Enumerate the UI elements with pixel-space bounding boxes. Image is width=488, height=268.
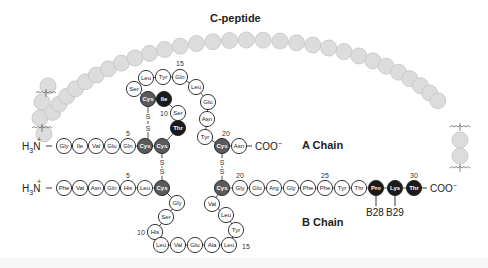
a-chain-residue-3: Val xyxy=(88,138,103,153)
a-chain-residue-17: Glu xyxy=(200,94,215,109)
svg-text:Gly: Gly xyxy=(236,185,245,191)
b-chain-residue-21: Glu xyxy=(249,180,264,195)
svg-text:+: + xyxy=(37,136,41,143)
svg-text:Glu: Glu xyxy=(107,143,116,149)
b-chain-label: B Chain xyxy=(302,216,344,228)
a-chain-residue-1: Gly xyxy=(56,138,71,153)
b-chain-residue-16: Tyr xyxy=(228,222,243,237)
svg-text:Lys: Lys xyxy=(390,185,401,191)
b-chain-residue-15: Leu xyxy=(221,237,236,252)
svg-text:Val: Val xyxy=(208,201,216,207)
c-peptide-residue xyxy=(205,34,221,50)
sulfur-label: S xyxy=(146,125,151,132)
b-chain-residue-8: Gly xyxy=(169,195,184,210)
b-chain-residue-12: Val xyxy=(170,237,185,252)
svg-text:Leu: Leu xyxy=(221,212,231,218)
a-chain-residue-13: Leu xyxy=(138,70,153,85)
a-chain-residue-9: Ser xyxy=(170,105,185,120)
svg-text:Cys: Cys xyxy=(142,96,154,102)
svg-text:Leu: Leu xyxy=(156,242,166,248)
b-chain-residue-14: Ala xyxy=(204,237,219,252)
sulfur-label: S xyxy=(220,159,225,166)
a-chain-residue-11: Cys xyxy=(140,91,155,106)
svg-text:Gln: Gln xyxy=(175,74,184,80)
svg-text:Pro: Pro xyxy=(371,185,381,191)
svg-text:Phe: Phe xyxy=(303,185,314,191)
b28-label: B28 xyxy=(366,207,384,218)
svg-text:Asn: Asn xyxy=(91,185,101,191)
c-peptide-residue xyxy=(289,35,305,51)
svg-text:Leu: Leu xyxy=(141,75,151,81)
a-chain-residue-5: Gln xyxy=(120,138,135,153)
svg-text:Leu: Leu xyxy=(191,84,201,90)
svg-text:Ser: Ser xyxy=(129,86,138,92)
svg-text:Gly: Gly xyxy=(173,200,182,206)
svg-text:Thr: Thr xyxy=(409,185,419,191)
c-peptide-residue xyxy=(321,40,337,56)
c-peptide-residue xyxy=(238,32,254,48)
b-chain-residue-18: Val xyxy=(204,196,219,211)
c-peptide-residue xyxy=(188,36,204,52)
c-peptide-residue xyxy=(222,33,238,49)
svg-text:Ala: Ala xyxy=(208,242,217,248)
b-chain-residue-25: Phe xyxy=(317,180,332,195)
svg-text:Tyr: Tyr xyxy=(159,74,167,80)
svg-text:Ser: Ser xyxy=(173,110,182,116)
svg-text:Glu: Glu xyxy=(190,242,199,248)
residue-number: 15 xyxy=(176,60,184,67)
residue-number: 25 xyxy=(321,172,329,179)
svg-text:Phe: Phe xyxy=(320,185,331,191)
a-chain-residue-7: Cys xyxy=(154,138,169,153)
svg-text:Asn: Asn xyxy=(234,143,244,149)
residue-number: 15 xyxy=(242,243,250,250)
b-chain-residue-23: Gly xyxy=(283,180,298,195)
a-chain-residue-14: Tyr xyxy=(155,69,170,84)
c-peptide-residue xyxy=(127,50,143,66)
diagram-canvas: SSSSSS GlyIleValGluGlnCysCysThrSerIleCys… xyxy=(0,0,488,268)
a-chain-residue-16: Leu xyxy=(188,79,203,94)
svg-text:Glu: Glu xyxy=(203,99,212,105)
a-chain-residue-20: Cys xyxy=(214,138,229,153)
svg-text:Cys: Cys xyxy=(216,185,228,191)
b29-label: B29 xyxy=(386,207,404,218)
a-chain-residue-21: Asn xyxy=(231,138,246,153)
svg-text:Gln: Gln xyxy=(123,143,132,149)
b-chain-residue-27: Thr xyxy=(351,180,366,195)
a-chain-residue-12: Ser xyxy=(126,81,141,96)
b-chain-residue-22: Arg xyxy=(266,180,281,195)
b-chain-residue-1: Phe xyxy=(56,180,71,195)
a-chain-residue-19: Tyr xyxy=(197,129,212,144)
c-peptide-residue xyxy=(336,44,352,60)
svg-text:Gly: Gly xyxy=(287,185,296,191)
c-peptide-residue xyxy=(351,48,367,64)
svg-text:Ser: Ser xyxy=(161,214,170,220)
c-peptide-label: C-peptide xyxy=(210,12,261,24)
svg-text:Gly: Gly xyxy=(60,143,69,149)
svg-text:+: + xyxy=(37,178,41,185)
residue-number: 20 xyxy=(236,172,244,179)
a-chain-residue-15: Gln xyxy=(172,69,187,84)
svg-text:Thr: Thr xyxy=(355,185,364,191)
residue-number: 10 xyxy=(160,110,168,117)
sulfur-label: S xyxy=(220,168,225,175)
svg-text:Asn: Asn xyxy=(202,116,212,122)
b-chain-residue-5: His xyxy=(120,180,135,195)
bottom-strip xyxy=(0,258,488,268)
svg-text:His: His xyxy=(124,185,133,191)
c-peptide-residue xyxy=(452,148,468,164)
b-chain-residue-17: Leu xyxy=(218,207,233,222)
svg-text:Thr: Thr xyxy=(173,125,183,131)
b-chain-residue-26: Tyr xyxy=(334,180,349,195)
svg-text:Arg: Arg xyxy=(269,185,278,191)
residue-number: 10 xyxy=(137,229,145,236)
b-chain-residue-3: Asn xyxy=(88,180,103,195)
b-chain-residue-13: Glu xyxy=(187,237,202,252)
svg-text:Tyr: Tyr xyxy=(338,185,346,191)
c-peptide-residue xyxy=(255,32,271,48)
b-chain-residue-19: Cys xyxy=(214,180,229,195)
b-chain-residue-30: Thr xyxy=(406,180,421,195)
svg-text:Phe: Phe xyxy=(59,185,70,191)
a-chain-residue-2: Ile xyxy=(72,138,87,153)
svg-text:Cys: Cys xyxy=(156,185,168,191)
c-peptide-residue xyxy=(272,33,288,49)
